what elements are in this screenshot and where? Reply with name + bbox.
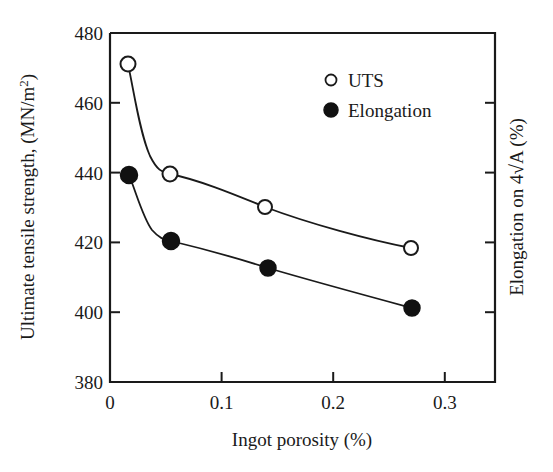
chart-legend: UTS Elongation [324, 70, 432, 121]
y-axis-title: Ultimate tensile strength, (MN/m2) [16, 74, 39, 340]
x-tick-label: 0.2 [321, 392, 345, 413]
data-point-uts [163, 167, 178, 182]
y-tick-label: 400 [75, 302, 104, 323]
y-tick-label: 380 [75, 372, 104, 393]
legend-marker-filled-circle-icon [324, 103, 338, 117]
y2-axis-ticks [485, 103, 495, 312]
chart-canvas: 480 460 440 420 400 380 0 0.1 0.2 0.3 In… [0, 0, 553, 472]
x-tick-label: 0 [105, 392, 115, 413]
plot-frame [110, 33, 495, 382]
y-axis-title-tail: ) [17, 74, 39, 80]
y-tick-label: 480 [75, 23, 104, 44]
chart-figure: 480 460 440 420 400 380 0 0.1 0.2 0.3 In… [0, 0, 553, 472]
y-tick-label: 440 [75, 163, 104, 184]
legend-label-uts: UTS [348, 70, 384, 91]
series-markers-elongation [121, 167, 421, 317]
y2-axis-title: Elongation on 4√A (%) [506, 118, 528, 296]
x-tick-label: 0.1 [210, 392, 234, 413]
data-point-elongation [163, 233, 180, 250]
x-tick-label: 0.3 [433, 392, 457, 413]
data-point-elongation [260, 260, 276, 276]
data-point-uts [258, 200, 272, 214]
series-line-uts [128, 64, 411, 248]
data-point-uts [404, 241, 418, 255]
legend-marker-open-circle-icon [326, 75, 337, 86]
data-point-elongation [121, 167, 138, 184]
y-axis-title-main: Ultimate tensile strength, (MN/m [17, 87, 39, 341]
legend-label-elongation: Elongation [348, 100, 432, 121]
y-tick-labels: 480 460 440 420 400 380 [75, 23, 104, 393]
x-tick-labels: 0 0.1 0.2 0.3 [105, 392, 456, 413]
y-tick-label: 460 [75, 93, 104, 114]
svg-text:Ultimate tensile strength, (MN: Ultimate tensile strength, (MN/m2) [16, 74, 39, 340]
y-axis-ticks [110, 33, 120, 382]
data-point-uts [121, 57, 136, 72]
data-point-elongation [404, 300, 420, 316]
x-axis-ticks [110, 372, 445, 382]
y-tick-label: 420 [75, 232, 104, 253]
x-axis-title: Ingot porosity (%) [232, 429, 372, 451]
